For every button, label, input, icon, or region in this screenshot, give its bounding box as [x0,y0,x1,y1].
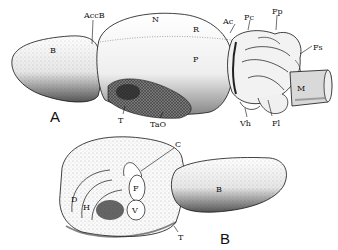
panel-b-title: B [220,230,230,247]
label-p: P [193,55,199,64]
label-fs: Fs [313,43,323,52]
label-bulb-b: B [216,185,222,194]
label-m: M [297,84,305,93]
label-accessory-bulb: AccB [83,11,105,20]
panel-a: B AccB N R P Ac Pc Fp Fs M T TaO Vh Fl A [12,7,332,129]
label-t-b: T [178,233,184,242]
label-ac: Ac [222,17,234,26]
label-bulb-a: B [50,46,56,55]
label-c: C [175,140,181,149]
label-v: V [131,206,138,215]
brain-illustration: B AccB N R P Ac Pc Fp Fs M T TaO Vh Fl A [0,0,338,250]
label-f: F [133,184,139,193]
label-h: H [83,203,90,212]
label-r: R [193,25,200,34]
cerebellum [228,31,301,104]
label-t-a: T [118,116,124,125]
label-tao: TaO [150,120,166,129]
label-n: N [152,15,159,24]
label-fp: Fp [272,7,283,16]
panel-a-title: A [50,108,60,125]
label-fl: Fl [272,119,281,128]
label-d: D [71,195,77,204]
label-pc: Pc [244,13,254,22]
panel-b: C F V D H B T B [60,137,287,247]
label-vh: Vh [239,119,251,128]
